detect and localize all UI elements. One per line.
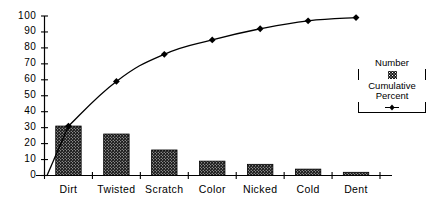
cumulative-line	[68, 18, 356, 126]
x-axis-category-label: Scratch	[140, 184, 188, 195]
chart-legend: Number Cumulative Percent	[352, 58, 432, 114]
bar	[104, 134, 129, 175]
data-point-marker	[353, 14, 360, 21]
x-axis-category-label: Nicked	[236, 184, 284, 195]
legend-line-marker	[385, 104, 399, 111]
data-point-marker	[257, 25, 264, 32]
bar	[200, 161, 225, 175]
legend-label-number: Number	[352, 58, 432, 69]
bar	[247, 164, 272, 175]
legend-marker-row	[352, 102, 432, 114]
bar-series-number	[56, 126, 369, 175]
legend-bar-swatch	[388, 71, 397, 79]
line-series-cumulative-percent	[47, 18, 356, 176]
x-axis-category-label: Dent	[332, 184, 380, 195]
legend-swatch-row	[352, 69, 432, 81]
bar	[295, 169, 320, 175]
bar	[152, 150, 177, 176]
x-axis-category-label: Twisted	[92, 184, 140, 195]
data-point-marker	[209, 37, 216, 44]
bar	[343, 172, 368, 175]
legend-label-percent: Percent	[352, 91, 432, 102]
x-axis-category-label: Dirt	[45, 184, 93, 195]
data-point-marker	[161, 51, 168, 58]
x-axis-category-label: Cold	[284, 184, 332, 195]
pareto-chart: 0102030405060708090100 DirtTwistedScratc…	[0, 0, 437, 207]
line-markers	[65, 14, 359, 129]
data-point-marker	[305, 17, 312, 24]
x-axis-category-label: Color	[188, 184, 236, 195]
bar	[56, 126, 81, 175]
